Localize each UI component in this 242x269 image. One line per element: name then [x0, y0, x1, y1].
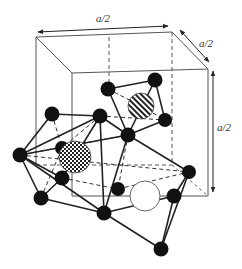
interstitial-sites	[55, 93, 160, 211]
atom	[158, 113, 172, 127]
atom	[97, 206, 112, 221]
atom	[148, 73, 163, 88]
atom	[45, 107, 60, 122]
atom	[34, 191, 49, 206]
atom	[55, 171, 70, 186]
atom	[111, 182, 125, 196]
checkered-interstitial	[59, 141, 91, 173]
atom	[182, 165, 196, 179]
atom	[13, 148, 28, 163]
atom	[101, 82, 116, 97]
empty-interstitial	[130, 181, 160, 211]
atom	[167, 189, 182, 204]
height-dimension-label: a/2	[217, 121, 232, 133]
atom	[93, 109, 108, 124]
top-dimension-label: a/2	[96, 12, 111, 24]
atom	[154, 242, 169, 257]
depth-dimension-label: a/2	[199, 37, 214, 49]
top-dimension-arrow	[38, 26, 168, 32]
crystal-structure-diagram: a/2 a/2 a/2	[0, 0, 242, 269]
hatched-interstitial	[128, 93, 154, 119]
atom	[121, 128, 136, 143]
